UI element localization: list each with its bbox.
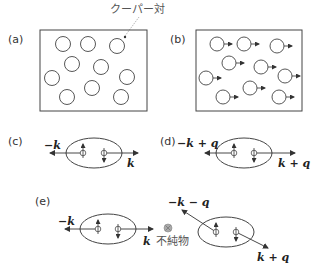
panel-a: (a) クーパー対 <box>8 2 165 111</box>
panel-b: (b) <box>170 30 302 111</box>
momentum-arrow-right <box>236 232 268 248</box>
panel-b-label: (b) <box>170 33 186 46</box>
panel-a-label: (a) <box>8 33 23 46</box>
panel-e-label: (e) <box>35 195 50 208</box>
cooper-pair-after-scattering: −k − q k + q <box>168 196 289 263</box>
panel-c: (c) −k k <box>8 135 138 170</box>
cooper-pair-diagram: (a) クーパー対 (b) <box>0 0 312 263</box>
panel-c-label: (c) <box>8 135 23 148</box>
panel-d: (d) −k + q k + q <box>160 135 310 170</box>
momentum-label-right: k <box>143 235 151 248</box>
impurity: 不純物 <box>156 224 189 248</box>
annotation-leader-line <box>125 17 139 36</box>
cooper-pairs-at-rest <box>45 37 135 105</box>
momentum-label-right: k + q <box>278 157 310 170</box>
momentum-label-right: k + q <box>257 251 289 263</box>
cooper-pair-ellipse <box>198 217 254 247</box>
panel-e: (e) −k k 不純物 − <box>35 195 289 263</box>
impurity-label: 不純物 <box>156 234 189 248</box>
momentum-label-right: k <box>127 157 135 170</box>
momentum-label-left: −k <box>58 215 75 228</box>
moving-cooper-pairs <box>199 37 300 104</box>
momentum-label-left: −k − q <box>168 196 210 209</box>
momentum-label-left: −k + q <box>177 137 219 150</box>
panel-d-label: (d) <box>160 135 176 148</box>
cooper-pair-annotation: クーパー対 <box>110 2 165 16</box>
cooper-pair-before-scattering: −k k <box>58 214 153 248</box>
annotation-leader-dot <box>124 36 126 38</box>
momentum-label-left: −k <box>44 139 61 152</box>
